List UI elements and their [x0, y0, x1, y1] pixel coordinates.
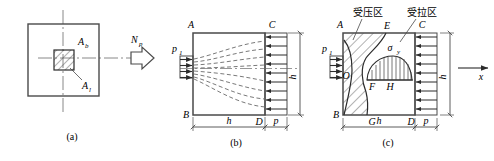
panel-b-label-p1-sub: 1: [179, 49, 183, 57]
panel-a-caption: (a): [66, 131, 77, 143]
panel-b-label-p1: p: [171, 43, 177, 54]
figure-container: A b A l (a) N p: [0, 0, 494, 161]
panel-c-label-D: D: [406, 116, 415, 127]
panel-b-diffusion-lines: [194, 41, 265, 107]
panel-c-label-p1-sub: 1: [329, 49, 333, 57]
leader-line-al: [70, 68, 82, 80]
panel-b-dim-height-label: h: [287, 75, 298, 80]
label-np: N: [130, 34, 139, 45]
panel-b-dim-height: h: [287, 33, 304, 115]
local-area-square: [54, 50, 74, 70]
panel-c-group: 受压区 受拉区 A C B D E O F H G σ y p 1 h: [321, 6, 488, 149]
panel-a-group: A b A l (a): [28, 10, 148, 143]
figure-svg: A b A l (a) N p: [0, 0, 494, 161]
panel-c-sigma-lobe-outline: [367, 56, 412, 80]
panel-c-dim-height-label: h: [437, 75, 448, 80]
panel-c-caption: (c): [382, 137, 393, 149]
panel-c-label-B: B: [333, 109, 339, 120]
panel-b-label-A: A: [187, 19, 195, 30]
panel-c-x-axis: x: [458, 68, 488, 82]
panel-c-label-A: A: [336, 19, 344, 30]
leader-line-tension: [400, 19, 416, 42]
panel-c-label-tension-zone: 受拉区: [407, 6, 437, 18]
label-np-sub: p: [138, 40, 143, 48]
panel-c-label-G: G: [368, 116, 375, 127]
panel-b-body-rect: [193, 33, 265, 115]
panel-b-label-D: D: [254, 116, 263, 127]
panel-c-label-compression-zone: 受压区: [353, 7, 383, 18]
panel-c-label-E: E: [383, 20, 390, 31]
panel-c-label-O: O: [342, 70, 349, 81]
panel-c-stress-arrows: [416, 37, 437, 109]
load-arrow-np: [131, 47, 154, 69]
panel-c-load-arrows: [330, 60, 342, 78]
panel-c-label-sigma: σ: [388, 42, 394, 53]
panel-c-x-axis-label: x: [478, 71, 484, 82]
panel-b-caption: (b): [230, 137, 242, 149]
panel-c-label-C: C: [419, 19, 426, 30]
panel-b-group: A C B D p 1 h h p (b): [171, 19, 304, 149]
panel-c-label-p1: p: [321, 43, 327, 54]
panel-b-dim-p-label: p: [273, 115, 279, 126]
label-area-local: A: [81, 80, 89, 91]
panel-b-dim-bottom: h p: [193, 115, 287, 131]
panel-c-dim-bottom: h p: [343, 115, 437, 131]
panel-c-stress-block: [415, 33, 437, 115]
panel-b-label-C: C: [269, 19, 276, 30]
panel-c-sigma-lobe-hatch: [372, 56, 411, 80]
panel-c-label-H: H: [385, 81, 394, 92]
panel-c-label-F: F: [368, 81, 376, 92]
panel-b-label-B: B: [183, 109, 189, 120]
panel-b-stress-arrows: [266, 37, 287, 109]
label-area-local-sub: l: [89, 86, 91, 94]
panel-c-dim-height: h: [437, 33, 454, 115]
panel-c-label-sigma-sub: y: [396, 48, 401, 56]
load-arrow-np-group: N p: [130, 34, 154, 69]
panel-b-dim-h-label: h: [227, 115, 232, 126]
label-area-bearing: A: [77, 36, 85, 47]
panel-c-dim-p-label: p: [423, 115, 429, 126]
panel-c-dim-h-label: h: [377, 115, 382, 126]
panel-b-stress-block: [265, 33, 287, 115]
label-area-bearing-sub: b: [85, 42, 89, 50]
